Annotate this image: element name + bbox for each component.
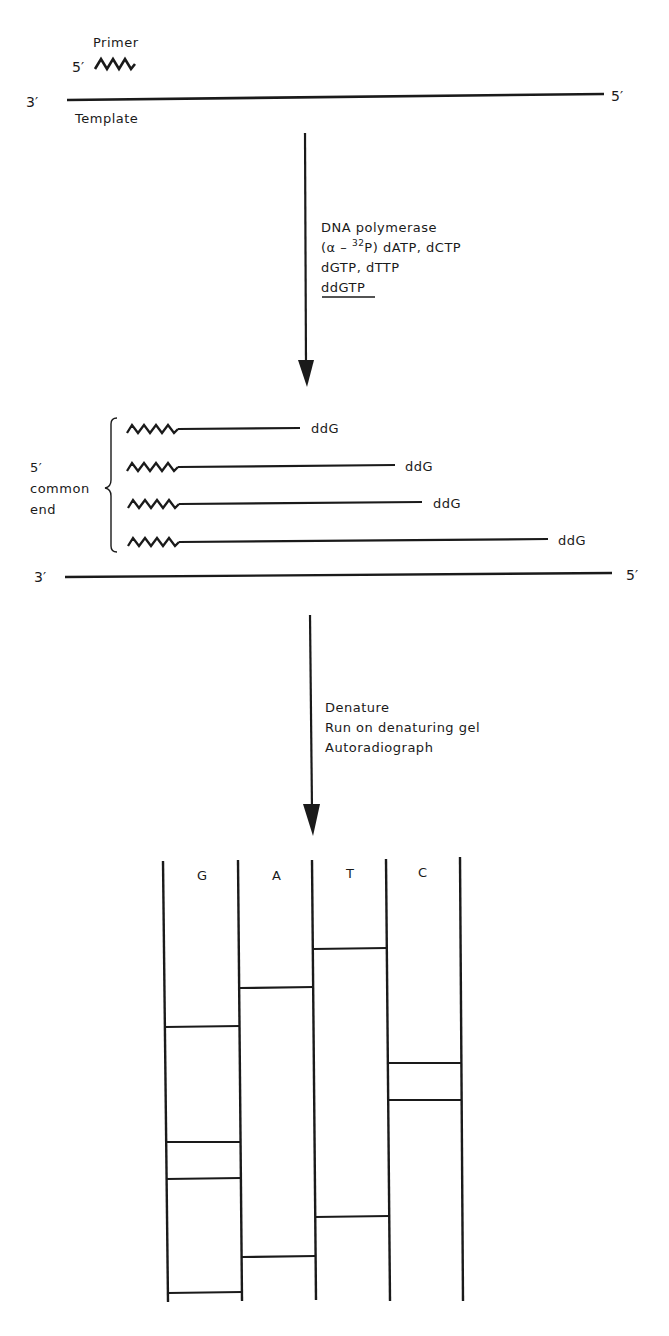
fragment-1: ddG bbox=[127, 421, 339, 436]
template2-3prime-label: 3′ bbox=[34, 569, 46, 585]
gel-band bbox=[313, 948, 387, 949]
lane-g-bands bbox=[165, 1026, 242, 1293]
lane-t-bands bbox=[313, 948, 389, 1217]
gel-band bbox=[242, 1256, 316, 1257]
primer-zigzag-icon bbox=[127, 425, 178, 433]
gel-lane-divider bbox=[163, 861, 168, 1302]
gel-band bbox=[165, 1026, 240, 1027]
reaction-line-polymerase: DNA polymerase bbox=[321, 220, 437, 235]
step1-primer-template: Primer 5′ 3′ 5′ Template bbox=[26, 35, 623, 126]
primer-zigzag-icon bbox=[128, 538, 179, 546]
lane-label-c: C bbox=[418, 865, 427, 880]
lane-a-bands bbox=[240, 987, 316, 1257]
primer-zigzag-icon bbox=[128, 500, 179, 508]
fragment-3-ddg-label: ddG bbox=[433, 496, 461, 511]
template2-5prime-label: 5′ bbox=[626, 567, 638, 583]
step2-fragments: 5′ common end ddG ddG ddG ddG 3′ bbox=[30, 418, 638, 585]
reaction-line-dgtp-dttp: dGTP, dTTP bbox=[321, 260, 400, 275]
sanger-sequencing-diagram: Primer 5′ 3′ 5′ Template DNA polymerase … bbox=[0, 0, 669, 1336]
reaction-line-ddgtp: ddGTP bbox=[321, 280, 365, 295]
fragment-3: ddG bbox=[128, 496, 461, 511]
sequencing-gel: G A T C bbox=[163, 857, 463, 1302]
gel-lane-divider bbox=[312, 860, 316, 1300]
arrow-down-icon bbox=[298, 360, 314, 387]
gel-lane-divider bbox=[238, 860, 242, 1301]
common-end-5prime: 5′ bbox=[30, 460, 42, 475]
arrow-down-icon bbox=[303, 804, 320, 836]
processing-autoradiograph: Autoradiograph bbox=[325, 740, 433, 755]
gel-band bbox=[168, 1292, 242, 1293]
lane-label-t: T bbox=[345, 866, 354, 881]
curly-brace-icon bbox=[105, 418, 117, 552]
fragment-4-ddg-label: ddG bbox=[558, 533, 586, 548]
lane-label-g: G bbox=[197, 868, 207, 883]
fragment-2: ddG bbox=[127, 459, 433, 474]
common-end-end: end bbox=[30, 502, 56, 517]
processing-run-gel: Run on denaturing gel bbox=[325, 720, 480, 735]
lane-c-bands bbox=[388, 1063, 462, 1100]
processing-steps: Denature Run on denaturing gel Autoradio… bbox=[325, 700, 480, 755]
reaction-arrow bbox=[298, 133, 314, 387]
reaction-line-labeled-datp: (α – 32P) dATP, dCTP bbox=[321, 238, 461, 255]
gel-band bbox=[240, 987, 314, 988]
gel-band bbox=[315, 1216, 389, 1217]
processing-denature: Denature bbox=[325, 700, 390, 715]
primer-zigzag-icon bbox=[127, 463, 178, 471]
common-end-common: common bbox=[30, 481, 90, 496]
reaction-conditions: DNA polymerase (α – 32P) dATP, dCTP dGTP… bbox=[321, 220, 461, 297]
primer-5prime-label: 5′ bbox=[72, 59, 84, 75]
template-3prime-label: 3′ bbox=[26, 94, 38, 110]
template-5prime-label: 5′ bbox=[611, 88, 623, 104]
template-strand-2 bbox=[65, 573, 612, 577]
template-strand bbox=[67, 94, 604, 100]
fragment-2-ddg-label: ddG bbox=[405, 459, 433, 474]
lane-label-a: A bbox=[272, 868, 281, 883]
gel-band bbox=[166, 1178, 241, 1179]
primer-zigzag-icon bbox=[95, 59, 135, 69]
fragment-4: ddG bbox=[128, 533, 586, 548]
primer-label: Primer bbox=[93, 35, 139, 50]
gel-lane-divider bbox=[460, 857, 463, 1301]
template-label: Template bbox=[74, 111, 138, 126]
gel-lane-divider bbox=[386, 859, 390, 1301]
processing-arrow bbox=[303, 615, 320, 836]
fragment-1-ddg-label: ddG bbox=[311, 421, 339, 436]
